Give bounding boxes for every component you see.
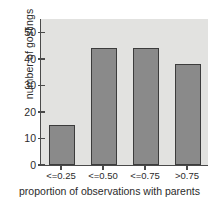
plot-area — [40, 19, 208, 165]
y-tick-mark — [38, 32, 45, 33]
bar — [133, 48, 158, 165]
y-tick-mark — [38, 111, 45, 112]
y-tick-label: 50 — [16, 27, 36, 38]
x-tick-label: <=0.25 — [46, 170, 76, 181]
y-axis-tick-labels: 01020304050 — [16, 19, 36, 167]
bar — [49, 125, 74, 165]
y-tick-mark — [38, 85, 45, 86]
bar — [91, 48, 116, 165]
x-tick-label: <=0.75 — [130, 170, 160, 181]
bar-chart-figure: number of goslings 01020304050 <=0.25<=0… — [0, 0, 219, 203]
y-tick-mark — [38, 58, 45, 59]
bar — [175, 64, 200, 165]
x-axis-title: proportion of observations with parents — [0, 185, 219, 197]
y-tick-label: 40 — [16, 54, 36, 65]
y-tick-mark — [38, 138, 45, 139]
x-tick-label: <=0.50 — [88, 170, 118, 181]
y-tick-label: 0 — [16, 160, 36, 171]
y-tick-label: 10 — [16, 133, 36, 144]
x-tick-label: >0.75 — [175, 170, 199, 181]
y-tick-label: 30 — [16, 80, 36, 91]
x-axis-tick-labels: <=0.25<=0.50<=0.75>0.75 — [40, 170, 208, 184]
y-tick-label: 20 — [16, 107, 36, 118]
